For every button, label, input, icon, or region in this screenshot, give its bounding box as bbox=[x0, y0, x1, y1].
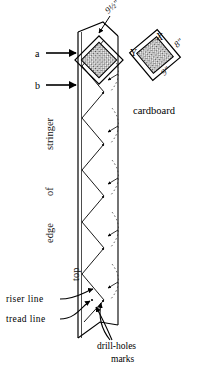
drill-hole-dot bbox=[91, 299, 93, 301]
label-stringer: stringer bbox=[44, 118, 55, 150]
tread-line-leader bbox=[60, 301, 90, 319]
drill-hole-dot bbox=[102, 144, 104, 146]
riser-line-leader bbox=[60, 289, 93, 299]
drill-hole-dot bbox=[102, 196, 104, 198]
callout-arrows bbox=[46, 53, 76, 85]
label-corner-y: Y bbox=[130, 48, 137, 58]
internal-pointer-arrows bbox=[108, 74, 118, 288]
label-b: b bbox=[35, 81, 40, 91]
pointer-arrow bbox=[108, 282, 118, 288]
drill-hole-dot bbox=[102, 248, 104, 250]
stringer-top-cut bbox=[78, 22, 118, 36]
label-drill-marks: marks bbox=[111, 355, 134, 365]
drill-hole-dot bbox=[102, 92, 104, 94]
pointer-arrow bbox=[108, 230, 118, 236]
label-tread-line: tread line bbox=[6, 315, 46, 325]
drill-holes-leader-2 bbox=[100, 303, 110, 340]
label-edge: edge bbox=[44, 223, 55, 243]
template-on-stringer bbox=[75, 36, 123, 84]
label-top: top bbox=[70, 268, 81, 281]
label-of: of bbox=[44, 187, 55, 196]
dimension-arrow bbox=[99, 16, 110, 33]
pointer-arrow bbox=[108, 126, 118, 132]
stringer-bottom-cut bbox=[78, 322, 118, 338]
drill-hole-dot bbox=[102, 300, 104, 302]
label-riser-line: riser line bbox=[6, 295, 44, 305]
label-drill-holes: drill-holes bbox=[97, 342, 136, 352]
label-cardboard: cardboard bbox=[133, 106, 175, 117]
stringer-dimension-leader bbox=[99, 16, 110, 33]
pointer-arrow bbox=[108, 74, 118, 80]
drill-hole-dots bbox=[91, 92, 104, 302]
pointer-arrow bbox=[108, 178, 118, 184]
label-corner-x: X bbox=[156, 32, 163, 42]
label-a: a bbox=[35, 49, 39, 59]
cardboard-template bbox=[130, 30, 181, 81]
